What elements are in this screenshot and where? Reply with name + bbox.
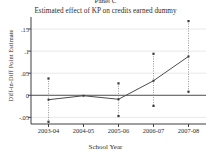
data-point-0 (48, 99, 50, 101)
error-cap-lower-4 (187, 91, 189, 93)
y-axis-tick-labels: .15 .1 .05 0 -.05 (0, 18, 29, 124)
error-cap-lower-3 (152, 105, 154, 107)
gridlines (31, 29, 206, 117)
figure-panel-c: Panel C Estimated effect of KP on credit… (0, 0, 211, 157)
error-cap-lower-0 (47, 121, 49, 123)
x-tick-label-3: 2006-07 (143, 127, 164, 135)
y-tick-label-2: .05 (21, 70, 29, 77)
x-tick-label-1: 2004-05 (73, 127, 94, 135)
plot-svg (31, 18, 206, 124)
data-point-1 (83, 95, 85, 97)
error-cap-upper-4 (187, 20, 189, 22)
x-axis-tick-labels: 2003-04 2004-05 2005-06 2006-07 2007-08 (31, 127, 206, 139)
error-bars (47, 20, 189, 123)
data-point-2 (118, 98, 120, 100)
y-tick-label-4: -.05 (19, 114, 29, 121)
data-point-4 (188, 55, 190, 57)
error-cap-lower-2 (117, 115, 119, 117)
panel-title: Panel C (0, 0, 211, 5)
y-tick-label-0: .15 (21, 26, 29, 33)
data-point-3 (153, 80, 155, 82)
x-tick-label-4: 2007-08 (178, 127, 199, 135)
error-cap-upper-3 (152, 53, 154, 55)
error-cap-upper-2 (117, 82, 119, 84)
x-axis-title: School Year (0, 143, 211, 151)
axis-ticks (28, 29, 189, 127)
error-cap-upper-0 (47, 77, 49, 79)
x-tick-label-0: 2003-04 (38, 127, 59, 135)
x-tick-label-2: 2005-06 (108, 127, 129, 135)
chart-subtitle: Estimated effect of KP on credits earned… (0, 7, 211, 16)
plot-area (31, 18, 206, 124)
